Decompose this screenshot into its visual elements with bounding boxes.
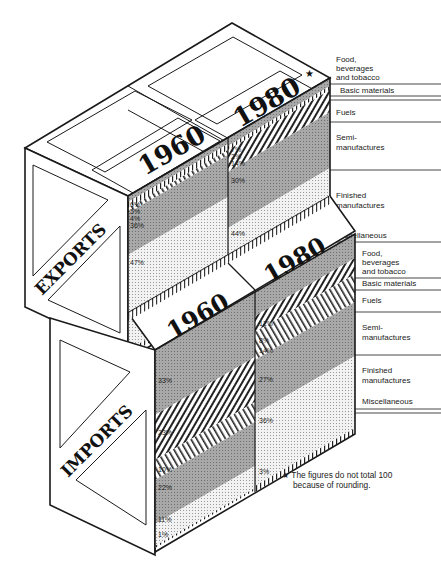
svg-text:Food,: Food, [336,55,356,64]
exports-1980-pct-basic: 2% [231,153,241,160]
imports-1980-pct-basic: 8% [259,337,269,344]
svg-text:manufactures: manufactures [336,143,384,152]
imports-1980-pct-misc: 3% [259,468,269,475]
svg-text:Basic materials: Basic materials [362,279,416,288]
exports-1980-pct-semi: 30% [231,177,245,184]
svg-text:Food,: Food, [362,249,382,258]
svg-text:and tobacco: and tobacco [362,267,406,276]
exports-1980-pct-fuels: 14% [231,160,245,167]
svg-text:manufactures: manufactures [362,333,410,342]
svg-text:Finished: Finished [362,366,392,375]
imports-1960-pct-semi: 22% [158,484,172,491]
svg-text:Fuels: Fuels [362,296,382,305]
svg-text:Basic materials: Basic materials [340,86,394,95]
footnote-line-1: The figures do not total 100 [291,470,392,480]
imports-1980-pct-finished: 36% [259,417,273,424]
exports-1960-pct-basic: 5% [130,208,140,215]
svg-text:Finished: Finished [336,191,366,200]
svg-text:Fuels: Fuels [336,108,356,117]
exports-1980-pct-food: 7% [231,146,241,153]
exports-1960-pct-finished: 47% [130,259,144,266]
svg-text:Semi-: Semi- [362,323,383,332]
imports-1980-pct-food: 12% [259,320,273,327]
exports-legend: Food, beverages and tobacco Basic materi… [330,55,441,242]
imports-legend: Food, beverages and tobacco Basic materi… [355,249,441,413]
svg-text:and tobacco: and tobacco [336,73,380,82]
svg-text:beverages: beverages [336,64,373,73]
exports-1960-pct-fuels: 4% [130,215,140,222]
imports-1980-pct-semi: 27% [259,376,273,383]
imports-1980-pct-fuels: 14% [259,347,273,354]
svg-text:Miscellaneous: Miscellaneous [362,397,413,406]
star-icon: ★ [305,68,314,79]
imports-1960-pct-fuels: 10% [158,466,172,473]
exports-1980-pct-finished: 44% [231,230,245,237]
star-icon: ★ [282,470,289,480]
svg-text:Semi-: Semi- [336,133,357,142]
imports-1960-pct-food: 33% [158,377,172,384]
imports-1960-pct-basic: 23% [158,429,172,436]
footnote-line-2: because of rounding. [282,480,392,490]
svg-text:manufactures: manufactures [362,376,410,385]
imports-1960-pct-finished: 11% [158,516,172,523]
imports-1960-pct-misc: 1% [158,531,168,538]
svg-text:manufactures: manufactures [336,201,384,210]
exports-1960-pct-semi: 36% [130,222,144,229]
exports-1960-pct-food: 6% [130,201,140,208]
svg-text:beverages: beverages [362,258,399,267]
footnote: ★ The figures do not total 100 because o… [282,470,392,490]
